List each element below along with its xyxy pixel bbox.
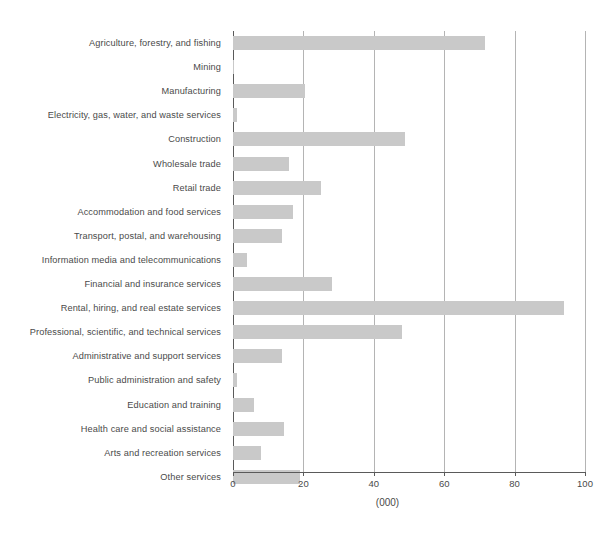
bar (233, 205, 293, 219)
category-label-axis: Agriculture, forestry, and fishingMining… (0, 31, 227, 472)
bar (233, 253, 247, 267)
bar (233, 108, 237, 122)
x-tick-label: 80 (509, 478, 520, 489)
bar-row (233, 224, 585, 248)
bar-row (233, 248, 585, 272)
bar-row (233, 368, 585, 392)
bar-row (233, 176, 585, 200)
x-axis-title: (000) (0, 497, 612, 508)
x-tick-20 (303, 472, 304, 476)
bar-row (233, 127, 585, 151)
x-tick-40 (374, 472, 375, 476)
bar-row (233, 417, 585, 441)
category-label: Retail trade (173, 176, 221, 200)
x-tick-label: 0 (230, 478, 235, 489)
category-label: Professional, scientific, and technical … (30, 320, 221, 344)
bar (233, 277, 332, 291)
x-tick-label: 100 (577, 478, 593, 489)
bar (233, 325, 402, 339)
bar-row (233, 344, 585, 368)
bar-row (233, 465, 585, 489)
category-label: Arts and recreation services (104, 441, 221, 465)
bar-row (233, 31, 585, 55)
x-tick-label: 40 (369, 478, 380, 489)
bar-row (233, 152, 585, 176)
x-tick-0 (233, 472, 234, 476)
bar-row (233, 103, 585, 127)
bar (233, 373, 237, 387)
x-tick-80 (515, 472, 516, 476)
bar (233, 60, 234, 74)
category-label: Construction (168, 127, 221, 151)
bar (233, 398, 254, 412)
bar (233, 181, 321, 195)
bar-row (233, 441, 585, 465)
category-label: Agriculture, forestry, and fishing (89, 31, 221, 55)
bar-row (233, 320, 585, 344)
bar (233, 301, 564, 315)
category-label: Health care and social assistance (81, 417, 221, 441)
x-tick-label: 20 (298, 478, 309, 489)
category-label: Wholesale trade (153, 152, 221, 176)
bar (233, 157, 289, 171)
bar (233, 349, 282, 363)
bar (233, 36, 485, 50)
category-label: Rental, hiring, and real estate services (61, 296, 221, 320)
bar-row (233, 296, 585, 320)
bar (233, 132, 405, 146)
bar (233, 422, 284, 436)
bar (233, 84, 305, 98)
plot-area (233, 31, 585, 472)
category-label: Public administration and safety (88, 368, 221, 392)
bar-row (233, 55, 585, 79)
x-axis-title-text: (000) (376, 497, 399, 508)
category-label: Transport, postal, and warehousing (74, 224, 221, 248)
category-label: Administrative and support services (72, 344, 221, 368)
category-label: Mining (193, 55, 221, 79)
category-label: Electricity, gas, water, and waste servi… (48, 103, 221, 127)
bar-row (233, 272, 585, 296)
bar (233, 446, 261, 460)
bar-chart: Agriculture, forestry, and fishingMining… (0, 0, 612, 533)
x-tick-label: 60 (439, 478, 450, 489)
category-label: Accommodation and food services (77, 200, 221, 224)
bar-row (233, 79, 585, 103)
category-label: Manufacturing (161, 79, 221, 103)
category-label: Other services (160, 465, 221, 489)
category-label: Financial and insurance services (85, 272, 222, 296)
category-label: Education and training (127, 393, 221, 417)
gridline-100 (585, 31, 586, 472)
bar (233, 229, 282, 243)
x-axis-line (233, 472, 586, 473)
category-label: Information media and telecommunications (42, 248, 221, 272)
bar-row (233, 200, 585, 224)
bar-row (233, 393, 585, 417)
x-tick-60 (444, 472, 445, 476)
x-tick-100 (585, 472, 586, 476)
